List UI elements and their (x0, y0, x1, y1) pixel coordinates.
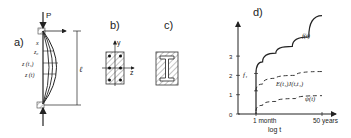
series-label: E(t₁)J(t,t₁) (275, 80, 303, 88)
x-label: x (35, 40, 39, 46)
x-tick-label: 1 month (253, 117, 277, 124)
panel-c: c) (156, 19, 178, 85)
x-tick-label: 50 years (313, 117, 339, 125)
load-label: P (46, 11, 51, 20)
panel-d: d) 0123 1 month50 years f(t)E(t₁)J(t,t₁)… (229, 6, 339, 134)
y-tick-label: 1 (229, 92, 233, 98)
zt-label: z (t) (24, 72, 35, 79)
y-tick-label: 3 (229, 54, 233, 60)
series-label: f(t) (302, 32, 310, 40)
length-label: ℓ (79, 65, 83, 74)
panel-c-label: c) (164, 19, 173, 31)
panel-b: b) y z (102, 19, 134, 86)
panel-d-label: d) (253, 6, 263, 18)
bottom-support (37, 102, 44, 108)
series-label: ψ(t) (305, 95, 315, 103)
x-axis-label: log t (268, 126, 281, 134)
y-tick-label: 2 (229, 73, 233, 79)
panel-a-label: a) (14, 36, 24, 48)
deflection-zt (43, 31, 57, 104)
panel-b-label: b) (110, 19, 120, 31)
panel-a: a) P x z₀ z (t₁) z (t) ℓ (14, 11, 83, 126)
y-axis-label: y (117, 39, 121, 47)
zt1-label: z (t₁) (21, 61, 34, 68)
y-tick-label: 0 (229, 112, 233, 118)
deflection-zt1 (43, 31, 53, 104)
f1-annotation: f₁ (243, 71, 247, 79)
z-axis-label: z (130, 69, 134, 76)
figure: a) P x z₀ z (t₁) z (t) ℓ b) (0, 0, 351, 138)
z0-label: z₀ (33, 49, 38, 55)
